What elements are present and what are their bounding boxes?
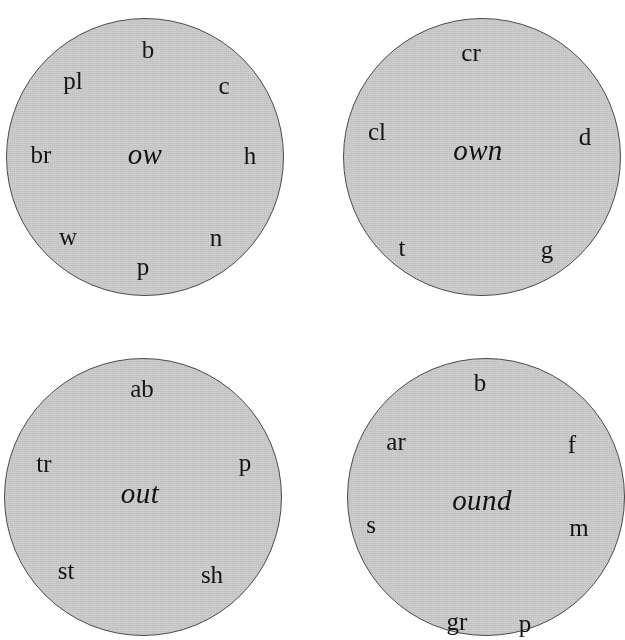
wheel-onset-ar: ar [386, 429, 405, 454]
wheel-onset-pl: pl [63, 68, 82, 93]
wheel-onset-tr: tr [36, 451, 51, 476]
wheel-rime-out: out [121, 479, 159, 508]
wheel-onset-d: d [579, 124, 592, 149]
wheel-onset-s: s [366, 512, 376, 537]
wheel-onset-b: b [142, 37, 155, 62]
wheel-onset-st: st [58, 558, 75, 583]
wheel-onset-br: br [31, 142, 52, 167]
word-family-wheels-container: owbplcbrhwnpowncrcldtgoutabtrpstshoundba… [0, 0, 625, 640]
wheel-onset-g: g [541, 237, 554, 262]
wheel-rime-ow: ow [128, 140, 163, 169]
wheel-onset-n: n [210, 225, 223, 250]
wheel-onset-f: f [568, 432, 576, 457]
wheel-onset-sh: sh [201, 562, 223, 587]
wheel-rime-own: own [453, 136, 503, 165]
wheel-rime-ound: ound [452, 486, 512, 515]
wheel-onset-b: b [474, 370, 487, 395]
wheel-onset-t: t [399, 235, 406, 260]
wheel-onset-h: h [244, 143, 257, 168]
wheel-onset-cl: cl [368, 119, 386, 144]
wheel-onset-m: m [569, 515, 588, 540]
wheel-onset-ab: ab [130, 376, 154, 401]
wheel-onset-gr: gr [447, 609, 468, 634]
wheel-onset-cr: cr [461, 40, 480, 65]
wheel-onset-w: w [59, 224, 77, 249]
wheel-onset-p: p [239, 450, 252, 475]
wheel-onset-p: p [519, 611, 532, 636]
wheel-onset-c: c [218, 73, 229, 98]
wheel-onset-p: p [137, 254, 150, 279]
